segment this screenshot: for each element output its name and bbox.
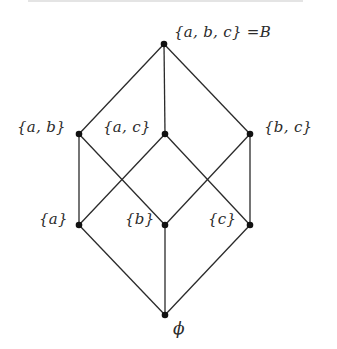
label-bc: {b, c} bbox=[264, 120, 312, 135]
edges bbox=[79, 44, 250, 315]
node-b bbox=[162, 222, 169, 229]
label-ac: {a, c} bbox=[103, 120, 151, 135]
node-empty bbox=[162, 312, 169, 319]
hasse-diagram bbox=[0, 0, 337, 349]
node-abc bbox=[161, 41, 168, 48]
label-c: {c} bbox=[208, 212, 236, 227]
label-a: {a} bbox=[39, 212, 68, 227]
node-c bbox=[247, 222, 254, 229]
label-abc: {a, b, c} =B bbox=[174, 25, 271, 40]
edge-a-empty bbox=[79, 225, 165, 315]
label-empty-set: ϕ bbox=[173, 320, 185, 337]
edge-abc-ac bbox=[164, 44, 165, 134]
edge-c-empty bbox=[165, 225, 250, 315]
label-ab: {a, b} bbox=[17, 120, 66, 135]
node-a bbox=[76, 222, 83, 229]
edge-abc-bc bbox=[164, 44, 250, 134]
node-bc bbox=[247, 131, 254, 138]
label-b: {b} bbox=[125, 212, 155, 227]
node-ac bbox=[162, 131, 169, 138]
node-ab bbox=[76, 131, 83, 138]
